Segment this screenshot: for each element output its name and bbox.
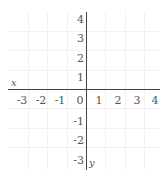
y-tick-label: -3 [73,155,84,166]
x-tick-label: 2 [115,95,122,106]
y-tick-label: -2 [73,135,84,146]
y-axis [86,12,87,170]
y-tick-label: 4 [77,14,84,25]
x-tick-label: 4 [152,95,159,106]
y-tick-label: -1 [73,116,84,127]
x-axis [8,89,160,90]
grid-line [8,128,160,129]
x-tick-label: 1 [96,95,103,106]
grid-line [8,147,160,148]
y-axis-label: y [89,158,95,168]
y-tick-label: 1 [77,72,84,83]
x-tick-label: -3 [17,95,28,106]
x-tick-label: 0 [77,95,84,106]
grid-line [8,70,160,71]
grid-line [8,31,160,32]
y-tick-label: 2 [77,53,84,64]
x-tick-label: 3 [134,95,141,106]
x-tick-label: -2 [36,95,47,106]
x-axis-label: x [11,78,17,88]
coordinate-plane: x y -3 -2 -1 0 1 2 3 4 4 3 2 1 -1 -2 -3 [0,0,161,173]
x-tick-label: -1 [55,95,66,106]
grid-line [8,108,160,109]
grid-line [8,50,160,51]
y-tick-label: 3 [77,33,84,44]
